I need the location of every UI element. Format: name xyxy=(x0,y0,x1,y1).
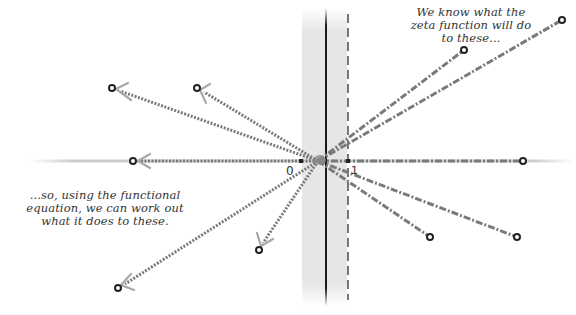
tick-zero xyxy=(299,159,303,163)
known-points xyxy=(427,17,565,240)
tick-one xyxy=(346,159,350,163)
point xyxy=(109,85,115,91)
known-rays xyxy=(318,20,562,237)
arrowhead-icon xyxy=(200,84,210,103)
point xyxy=(520,158,526,164)
annotation-known: We know what the zeta function will do t… xyxy=(396,6,546,45)
annotation-line: what it does to these. xyxy=(20,215,190,228)
point xyxy=(130,158,136,164)
point xyxy=(256,247,262,253)
point xyxy=(559,17,565,23)
point xyxy=(115,285,121,291)
annotation-line: to these... xyxy=(396,32,546,45)
annotation-derived: ...so, using the functional equation, we… xyxy=(20,189,190,228)
point xyxy=(461,47,467,53)
point xyxy=(514,234,520,240)
axis-label-one: 1 xyxy=(351,164,358,177)
critical-strip-diagram xyxy=(0,0,576,315)
point xyxy=(194,85,200,91)
origin-cluster xyxy=(314,155,326,165)
arrowheads xyxy=(116,83,273,290)
point xyxy=(427,234,433,240)
axis-label-zero: 0 xyxy=(286,164,294,178)
